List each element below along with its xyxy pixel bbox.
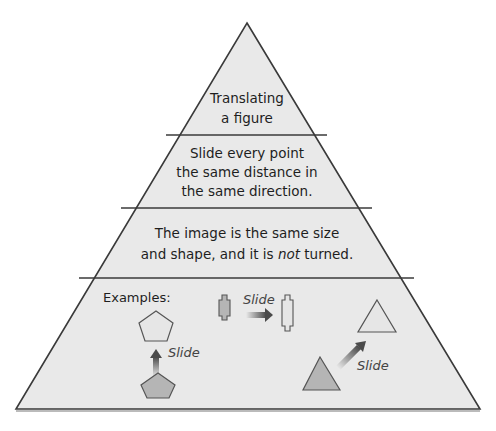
level-3-line-2: and shape, and it is not turned. bbox=[141, 246, 353, 262]
rectangle-slide-label: Slide bbox=[243, 292, 275, 307]
slide-right-arrow-shaft bbox=[246, 312, 266, 318]
level-2-line-1: Slide every point bbox=[190, 145, 304, 161]
examples-label: Examples: bbox=[103, 290, 171, 305]
level-2-line-3: the same direction. bbox=[182, 183, 313, 199]
level-1-line-1: Translating bbox=[209, 90, 284, 106]
level-2-line-2: the same distance in bbox=[176, 164, 317, 180]
pentagon-slide-label: Slide bbox=[168, 345, 200, 360]
pyramid-outline bbox=[16, 23, 480, 409]
rectangle-image-icon bbox=[282, 295, 293, 331]
level-3-line-1: The image is the same size bbox=[154, 225, 340, 241]
level-1-line-2: a figure bbox=[221, 110, 273, 126]
triangle-slide-label: Slide bbox=[357, 358, 389, 373]
translation-pyramid-diagram: Translating a figure Slide every point t… bbox=[0, 0, 496, 431]
